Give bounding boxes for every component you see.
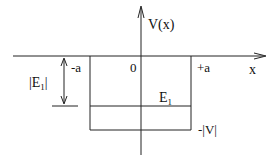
energy-level-label-sub: 1 xyxy=(168,97,173,107)
energy-level-label-main: E xyxy=(159,90,168,105)
binding-energy-label: |E1| xyxy=(29,76,48,92)
well-depth-label: -|V| xyxy=(198,123,217,136)
binding-energy-label-prefix: |E xyxy=(29,75,40,90)
y-axis-label: V(x) xyxy=(148,18,174,32)
right-edge-label: +a xyxy=(197,61,210,74)
x-axis-label: x xyxy=(249,63,256,77)
potential-well-diagram: V(x) x 0 -a +a -|V| E1 |E1| xyxy=(0,0,280,159)
energy-level-label: E1 xyxy=(159,91,172,107)
origin-label: 0 xyxy=(130,61,137,74)
left-edge-label: -a xyxy=(71,61,81,74)
binding-energy-label-suffix: | xyxy=(45,75,48,90)
